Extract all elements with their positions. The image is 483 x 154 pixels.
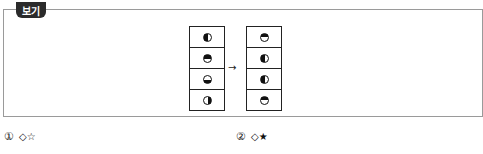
option-number: ② — [236, 130, 246, 143]
arrow-right-icon: → — [228, 62, 236, 73]
left-cell-2 — [190, 48, 224, 69]
moon-left-dark-icon — [260, 75, 269, 84]
moon-top-dark-icon — [203, 54, 212, 63]
moon-left-dark-icon — [260, 54, 269, 63]
left-cell-3 — [190, 69, 224, 90]
right-cell-3 — [247, 69, 281, 90]
moon-left-dark-icon — [203, 33, 212, 42]
example-box — [3, 9, 483, 117]
right-cell-2 — [247, 48, 281, 69]
right-cell-1 — [247, 27, 281, 48]
moon-right-dark-icon — [203, 96, 212, 105]
moon-bottom-dark-icon — [203, 75, 212, 84]
option-2[interactable]: ② ◇★ — [236, 130, 268, 143]
option-symbols: ◇★ — [251, 131, 268, 142]
left-column — [189, 26, 225, 111]
option-1[interactable]: ① ◇☆ — [4, 130, 36, 143]
moon-top-dark-icon — [260, 33, 269, 42]
example-label: 보기 — [16, 2, 46, 18]
left-cell-4 — [190, 90, 224, 110]
right-cell-4 — [247, 90, 281, 110]
left-cell-1 — [190, 27, 224, 48]
right-column — [246, 26, 282, 111]
option-number: ① — [4, 130, 14, 143]
option-symbols: ◇☆ — [19, 131, 36, 142]
moon-top-dark-icon — [260, 96, 269, 105]
